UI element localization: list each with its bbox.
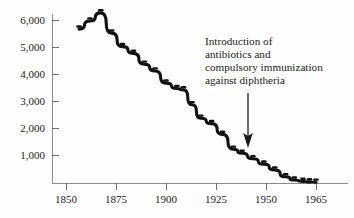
y-tick-1000: 1,000 [20,149,59,161]
axes [52,14,348,183]
x-tick-1900: 1900 [155,183,178,205]
annotation-arrow-icon [243,93,253,148]
annotation-line-3: compulsory immunization [205,61,323,73]
x-tick-1950: 1950 [255,183,278,205]
x-tick-label: 1900 [155,193,178,205]
y-tick-2000: 2,000 [20,122,59,134]
y-tick-6000: 6,000 [20,14,59,26]
y-tick-label: 4,000 [20,68,45,80]
x-tick-label: 1925 [205,193,228,205]
x-tick-1875: 1875 [105,183,128,205]
x-tick-1925: 1925 [205,183,228,205]
y-axis-ticks: 6,000 5,000 4,000 3,000 2,000 1,000 [20,14,59,161]
x-tick-1965: 1965 [305,183,328,205]
y-tick-label: 1,000 [20,149,45,161]
annotation-line-1: Introduction of [205,35,273,47]
x-tick-label: 1950 [255,193,278,205]
x-tick-1850: 1850 [55,183,78,205]
data-series-group [77,10,317,182]
annotation-line-4: against diphtheria [205,74,285,86]
x-tick-label: 1875 [105,193,128,205]
y-tick-label: 5,000 [20,41,45,53]
x-tick-label: 1850 [55,193,78,205]
y-tick-4000: 4,000 [20,68,59,80]
y-tick-label: 6,000 [20,14,45,26]
x-axis-ticks: 1850 1875 1900 1925 1950 1965 [55,183,328,205]
data-line-diphtheria [79,13,316,182]
y-tick-5000: 5,000 [20,41,59,53]
chart-figure: 6,000 5,000 4,000 3,000 2,000 1,000 [0,0,354,218]
y-tick-label: 3,000 [20,95,45,107]
diphtheria-mortality-line-chart: 6,000 5,000 4,000 3,000 2,000 1,000 [0,0,354,218]
data-markers [77,10,317,179]
y-tick-label: 2,000 [20,122,45,134]
x-tick-label: 1965 [305,193,328,205]
y-tick-3000: 3,000 [20,95,59,107]
annotation-line-2: antibiotics and [205,48,271,60]
